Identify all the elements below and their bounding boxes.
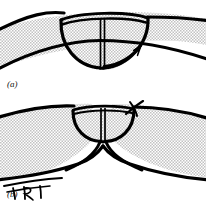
panel-b-caption: (b): [7, 189, 18, 199]
figure-root: (a): [0, 0, 206, 210]
panel-b: [0, 100, 206, 210]
panel-a-caption: (a): [7, 79, 18, 89]
panel-a: [0, 0, 206, 100]
